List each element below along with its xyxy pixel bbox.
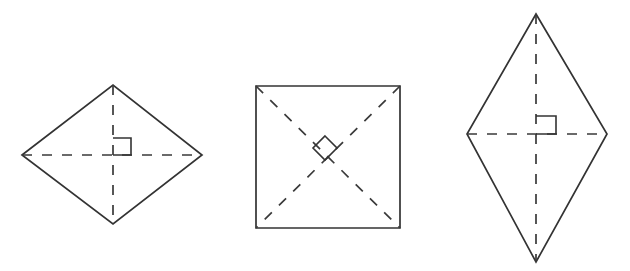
- geometry-figure: Quadrilaterals with perpendicular diagon…: [0, 0, 630, 271]
- figure-canvas: [0, 0, 630, 271]
